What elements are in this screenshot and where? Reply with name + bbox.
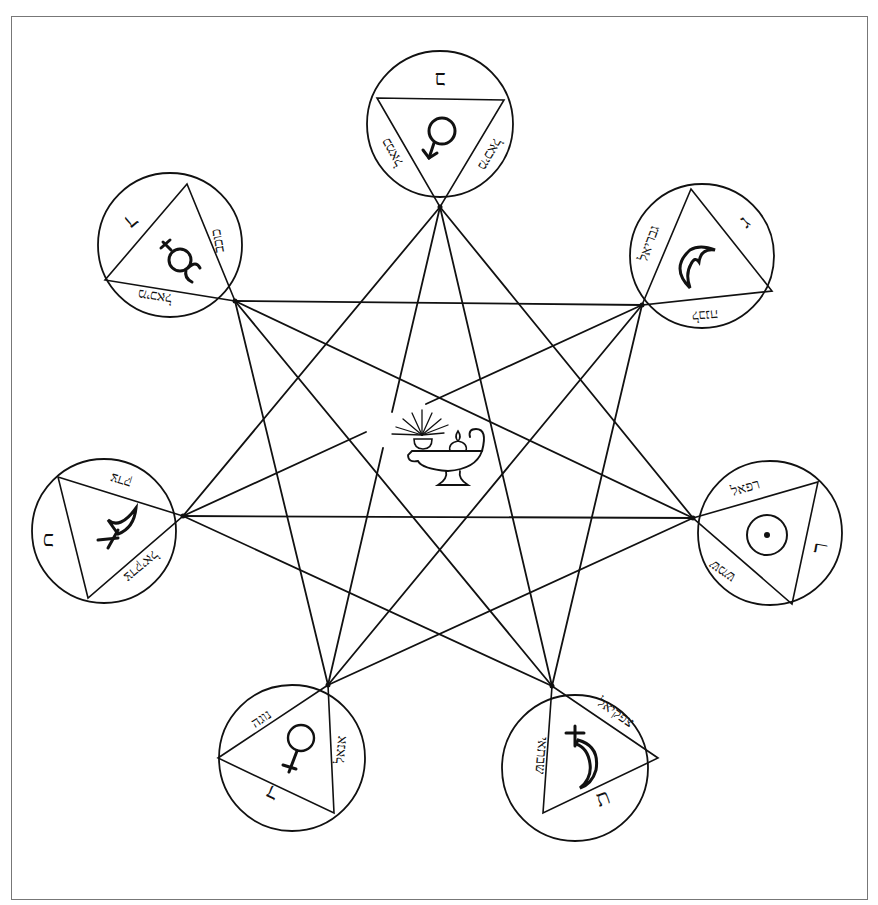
seal-lower-right-saturn: ת שבתאי צפקיאל <box>502 686 658 841</box>
heptagram-diagram: ב כמאל מיכאל ד כוכב מיכאל ג גבריאל לבנה … <box>0 0 878 905</box>
seal-upper-left-mercury: ד כוכב מיכאל <box>98 173 242 317</box>
seal-top-mercury: ב כמאל מיכאל <box>367 51 513 207</box>
svg-text:שבתאי: שבתאי <box>532 736 551 775</box>
svg-text:אנאל: אנאל <box>331 735 349 765</box>
oil-lamp-icon <box>392 410 484 485</box>
svg-text:לבנה: לבנה <box>692 307 719 325</box>
svg-text:כ: כ <box>43 529 54 554</box>
seal-upper-right-moon: ג גבריאל לבנה <box>630 184 774 328</box>
vertex-dots <box>181 205 696 689</box>
seal-right-sun: ר רפאל שמש <box>693 461 842 605</box>
heptagram-lines <box>183 207 693 686</box>
svg-text:ב: ב <box>435 68 446 93</box>
seal-lower-left-venus: ד נוגה אנאל <box>218 685 365 831</box>
seal-left-jupiter: כ צדק צדקיאל <box>32 459 183 603</box>
